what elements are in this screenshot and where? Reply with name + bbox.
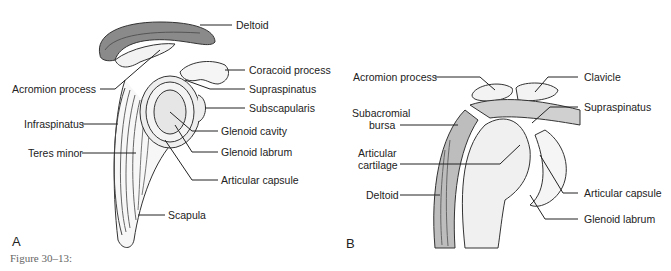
label-glenoid-labrum-b: Glenoid labrum bbox=[584, 213, 655, 225]
label-clavicle: Clavicle bbox=[584, 71, 621, 83]
label-scapula: Scapula bbox=[168, 209, 206, 221]
label-acromion-process-a: Acromion process bbox=[12, 83, 96, 95]
label-articular: Articular bbox=[358, 147, 397, 159]
shoulder-anatomy-illustration bbox=[0, 0, 671, 271]
label-supraspinatus-b: Supraspinatus bbox=[584, 101, 651, 113]
label-bursa: bursa bbox=[369, 119, 395, 131]
label-acromion-process-b: Acromion process bbox=[353, 71, 437, 83]
figure-caption: Figure 30–13: bbox=[10, 252, 72, 264]
label-subscapularis: Subscapularis bbox=[249, 102, 315, 114]
label-infraspinatus: Infraspinatus bbox=[24, 118, 84, 130]
panel-letter-b: B bbox=[346, 236, 355, 251]
panel-b-drawing bbox=[400, 77, 580, 248]
label-coracoid-process: Coracoid process bbox=[249, 64, 331, 76]
label-cartilage: cartilage bbox=[358, 159, 398, 171]
panel-letter-a: A bbox=[12, 234, 21, 249]
label-glenoid-labrum-a: Glenoid labrum bbox=[221, 146, 292, 158]
label-glenoid-cavity: Glenoid cavity bbox=[221, 125, 287, 137]
label-supraspinatus-a: Supraspinatus bbox=[249, 83, 316, 95]
label-deltoid-b: Deltoid bbox=[366, 189, 399, 201]
label-teres-minor: Teres minor bbox=[28, 147, 83, 159]
label-articular-capsule-a: Articular capsule bbox=[221, 174, 299, 186]
label-deltoid-a: Deltoid bbox=[236, 19, 269, 31]
label-articular-capsule-b: Articular capsule bbox=[584, 187, 662, 199]
label-subacromial: Subacromial bbox=[352, 107, 410, 119]
